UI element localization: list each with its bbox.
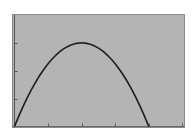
parabola-chart [0,0,196,137]
plot-frame [13,15,185,128]
